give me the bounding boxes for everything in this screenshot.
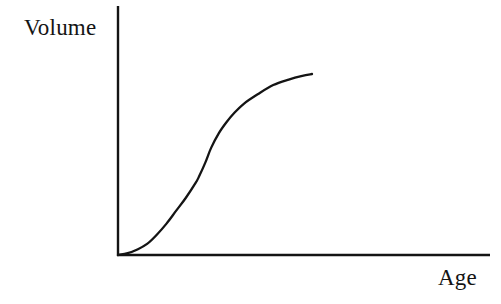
x-axis-label: Age <box>438 266 477 289</box>
growth-curve-figure: Volume Age <box>0 0 501 304</box>
axes-group <box>117 6 490 256</box>
data-series-group <box>118 74 312 255</box>
y-axis-label: Volume <box>24 16 96 39</box>
volume-sigmoid-curve <box>118 74 312 255</box>
chart-canvas <box>0 0 501 304</box>
